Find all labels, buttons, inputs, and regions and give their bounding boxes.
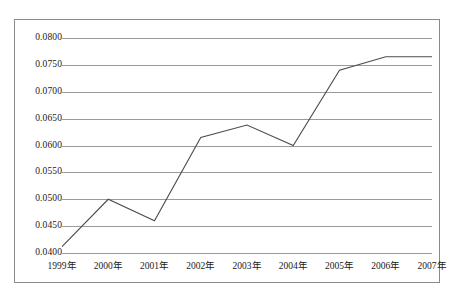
x-tick-label: 2000年 [94, 262, 123, 272]
x-tick-label: 2007年 [418, 262, 447, 272]
y-tick-label: 0.0650 [14, 114, 62, 124]
x-tick-label: 2005年 [325, 262, 354, 272]
y-tick-label: 0.0550 [14, 167, 62, 177]
y-tick-label: 0.0500 [14, 194, 62, 204]
plot-area [62, 38, 432, 253]
x-tick-label: 1999年 [48, 262, 77, 272]
series-line [62, 57, 432, 247]
y-tick-label: 0.0450 [14, 221, 62, 231]
gridline [62, 253, 432, 254]
line-chart-figure: 0.08000.07500.07000.06500.06000.05500.05… [0, 0, 456, 299]
x-tick-label: 2004年 [279, 262, 308, 272]
data-series-layer [62, 38, 432, 253]
x-tick-label: 2002年 [186, 262, 215, 272]
y-tick-label: 0.0600 [14, 141, 62, 151]
x-tick-label: 2001年 [140, 262, 169, 272]
x-tick-label: 2006年 [371, 262, 400, 272]
y-tick-label: 0.0800 [14, 33, 62, 43]
y-axis: 0.08000.07500.07000.06500.06000.05500.05… [14, 0, 62, 299]
x-axis: 1999年2000年2001年2002年2003年2004年2005年2006年… [62, 262, 432, 280]
y-tick-label: 0.0400 [14, 248, 62, 258]
y-tick-label: 0.0700 [14, 87, 62, 97]
x-tick-label: 2003年 [233, 262, 262, 272]
y-tick-label: 0.0750 [14, 60, 62, 70]
